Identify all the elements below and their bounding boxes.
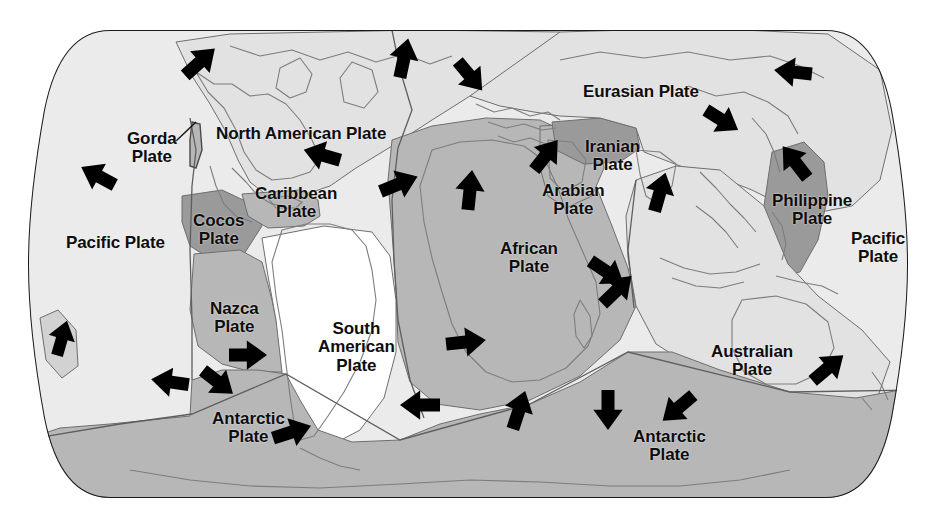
plate-label-pacific-plate-right: Pacific Plate <box>851 230 905 267</box>
plate-label-australian-plate: Australian Plate <box>711 343 793 380</box>
tectonic-plates-map: Gorda PlateNorth American PlatePacific P… <box>0 0 936 528</box>
plate-label-antarctic-plate-right: Antarctic Plate <box>633 428 706 465</box>
plate-label-philippine-plate: Philippine Plate <box>772 192 852 229</box>
plate-label-pacific-plate-left: Pacific Plate <box>66 234 165 252</box>
world-map-graphic <box>0 0 936 528</box>
plate-label-iranian-plate: Iranian Plate <box>585 138 640 175</box>
plate-label-gorda-plate: Gorda Plate <box>127 130 177 167</box>
plate-label-arabian-plate: Arabian Plate <box>542 182 605 219</box>
plate-label-cocos-plate: Cocos Plate <box>193 212 244 249</box>
plate-label-caribbean-plate: Caribbean Plate <box>255 185 337 222</box>
plate-label-eurasian-plate: Eurasian Plate <box>583 83 699 101</box>
plate-label-south-american-plate: South American Plate <box>318 320 395 375</box>
plate-label-nazca-plate: Nazca Plate <box>210 300 259 337</box>
plate-label-african-plate: African Plate <box>500 240 558 277</box>
plate-label-north-american-plate: North American Plate <box>216 125 386 143</box>
plate-label-antarctic-plate-left: Antarctic Plate <box>212 410 285 447</box>
